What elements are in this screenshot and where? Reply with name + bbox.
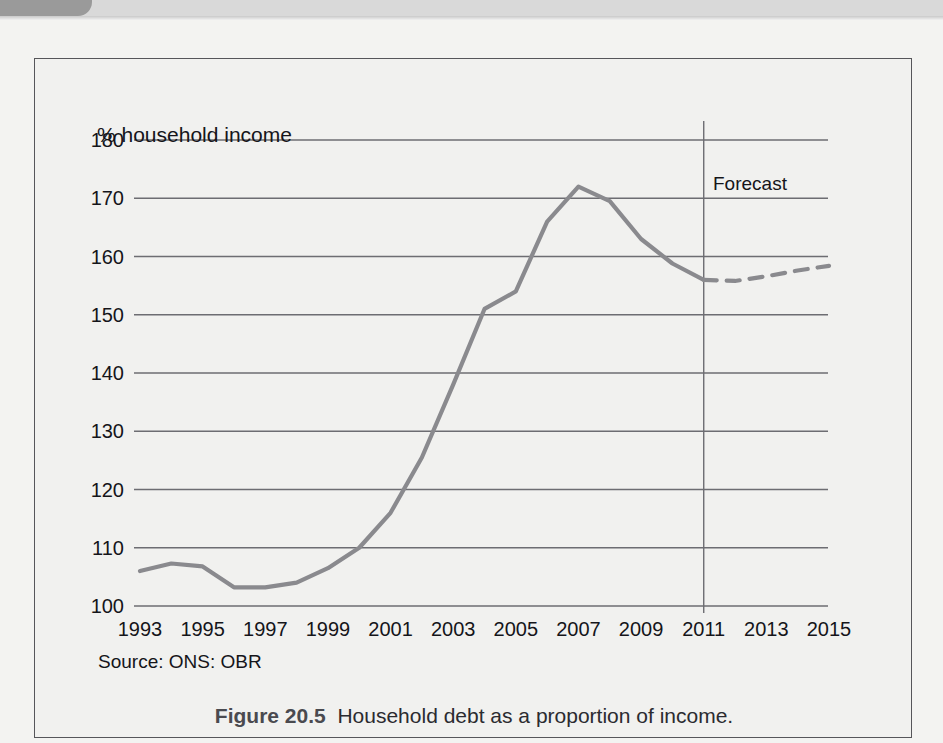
x-axis-tick-label: 1997 xyxy=(243,618,288,640)
y-axis-tick-label: 170 xyxy=(91,187,124,209)
gridlines xyxy=(134,140,828,606)
data-series-lines xyxy=(140,187,829,588)
y-axis-title: % household income xyxy=(97,123,292,147)
figure-caption: Figure 20.5 Household debt as a proporti… xyxy=(35,704,913,728)
x-axis-tick-label: 2003 xyxy=(431,618,476,640)
x-axis-tick-label: 1995 xyxy=(180,618,225,640)
x-axis-tick-label: 2011 xyxy=(682,618,725,640)
x-axis-tick-label: 2013 xyxy=(744,618,789,640)
x-axis-tick-label: 2007 xyxy=(556,618,601,640)
figure-caption-label: Figure 20.5 xyxy=(215,704,326,727)
y-axis-tick-label: 130 xyxy=(91,420,124,442)
x-axis-tick-label: 2009 xyxy=(619,618,664,640)
x-axis-tick-label: 1993 xyxy=(118,618,163,640)
y-axis-tick-label: 150 xyxy=(91,304,124,326)
forecast-annotation-label: Forecast xyxy=(713,173,787,195)
figure-frame: 180170160150140130120110100 199319951997… xyxy=(34,58,912,738)
y-axis-tick-label: 100 xyxy=(91,595,124,617)
y-axis-tick-label: 160 xyxy=(91,246,124,268)
x-axis-tick-label: 2001 xyxy=(368,618,413,640)
page-header-band xyxy=(0,0,943,16)
source-note: Source: ONS: OBR xyxy=(98,651,262,673)
y-axis-tick-label: 120 xyxy=(91,479,124,501)
y-axis-tick-labels: 180170160150140130120110100 xyxy=(91,129,124,617)
actual-series-line xyxy=(140,187,704,588)
x-axis-tick-labels: 1993199519971999200120032005200720092011… xyxy=(118,618,852,640)
chart-canvas: 180170160150140130120110100 199319951997… xyxy=(35,59,913,739)
x-axis-tick-label: 2005 xyxy=(494,618,539,640)
y-axis-tick-label: 140 xyxy=(91,362,124,384)
forecast-series-line xyxy=(704,266,829,281)
page-header-tab xyxy=(0,0,92,16)
x-axis-tick-label: 2015 xyxy=(807,618,852,640)
y-axis-tick-label: 110 xyxy=(92,537,124,559)
figure-caption-text: Household debt as a proportion of income… xyxy=(337,704,733,727)
x-axis-tick-label: 1999 xyxy=(306,618,351,640)
page-surface: 180170160150140130120110100 199319951997… xyxy=(0,20,943,743)
plot-area: 180170160150140130120110100 199319951997… xyxy=(35,59,913,739)
